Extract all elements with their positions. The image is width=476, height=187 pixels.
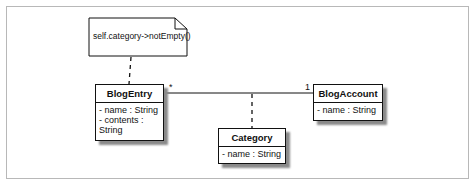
class-name: BlogEntry (96, 85, 163, 103)
class-attribute: - name : String (222, 149, 282, 159)
class-attribute: - name : String (99, 105, 160, 115)
class-name: Category (219, 129, 285, 147)
multiplicity-one: 1 (305, 82, 310, 92)
note-anchor-line (129, 57, 131, 84)
multiplicity-many: * (169, 82, 173, 92)
class-attribute: - name : String (317, 105, 379, 115)
constraint-note-text: self.category->notEmpty() (93, 31, 191, 41)
class-name: BlogAccount (314, 85, 382, 103)
class-attribute: - contents : String (99, 115, 160, 135)
class-blogaccount: BlogAccount - name : String (313, 84, 383, 121)
class-blogentry: BlogEntry - name : String - contents : S… (95, 84, 164, 141)
class-category: Category - name : String (218, 128, 286, 164)
